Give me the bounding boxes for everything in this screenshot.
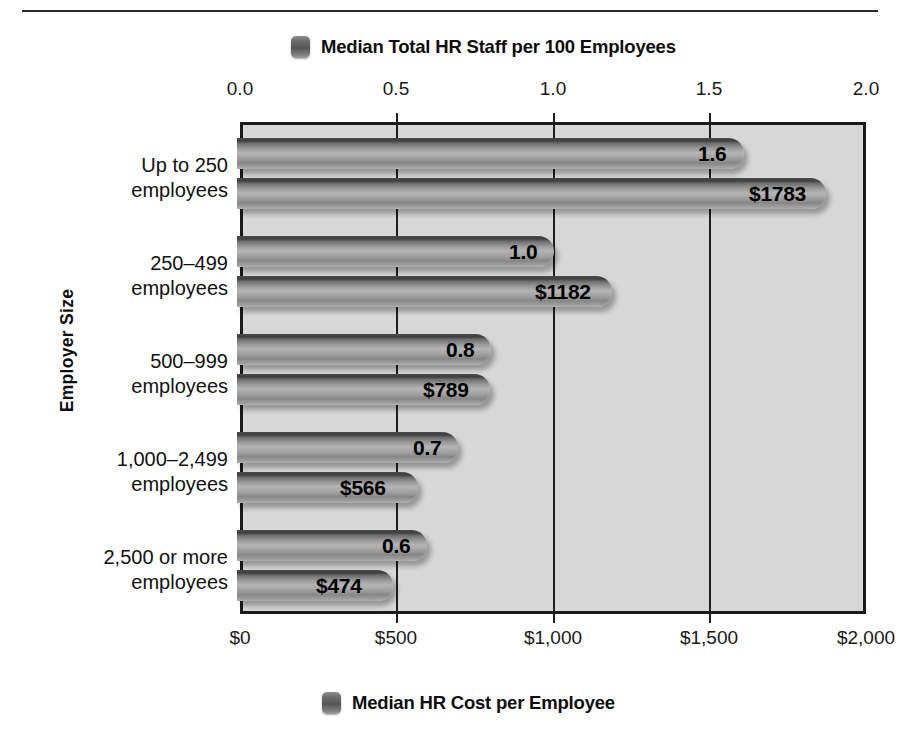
legend-top: Median Total HR Staff per 100 Employees (291, 36, 676, 58)
bar-staff-1 (237, 236, 554, 267)
bar-staff-0 (237, 138, 744, 169)
top-tick-0: 0.0 (227, 78, 253, 100)
category-label-1-line1: 250–499 (18, 251, 228, 276)
category-label-2-line1: 500–999 (18, 349, 228, 374)
bar-value-staff-1: 1.0 (509, 240, 537, 264)
top-tick-2: 1.0 (540, 78, 566, 100)
legend-top-label: Median Total HR Staff per 100 Employees (321, 36, 676, 58)
bar-cost-4 (237, 570, 393, 601)
bottom-tick-2: $1,000 (524, 627, 582, 649)
legend-swatch-icon (322, 692, 341, 714)
top-tick-stub-1 (396, 113, 398, 122)
category-label-3-line2: employees (18, 472, 228, 497)
bar-value-cost-4: $474 (316, 574, 362, 598)
bar-value-staff-3: 0.7 (413, 436, 441, 460)
bottom-tick-1: $500 (375, 627, 417, 649)
category-label-0-line1: Up to 250 (18, 153, 228, 178)
bar-value-cost-0: $1783 (749, 182, 806, 206)
category-label-1-line2: employees (18, 276, 228, 301)
bar-cost-0 (237, 178, 826, 209)
legend-bottom-label: Median HR Cost per Employee (352, 692, 615, 714)
bottom-tick-stub-2 (553, 614, 555, 623)
bar-value-staff-2: 0.8 (446, 338, 474, 362)
bottom-tick-stub-1 (396, 614, 398, 623)
bottom-tick-stub-3 (709, 614, 711, 623)
legend-bottom: Median HR Cost per Employee (322, 692, 615, 714)
chart-plot-area: 1.6 $1783 1.0 $1182 0.8 $789 0.7 (240, 122, 866, 614)
bar-value-cost-1: $1182 (535, 280, 591, 304)
top-tick-4: 2.0 (853, 78, 879, 100)
bar-value-staff-0: 1.6 (698, 142, 726, 166)
top-tick-1: 0.5 (383, 78, 409, 100)
legend-swatch-icon (291, 36, 310, 58)
bar-cost-3 (237, 472, 418, 503)
category-label-4: 2,500 or more employees (18, 545, 228, 595)
category-label-3-line1: 1,000–2,499 (18, 447, 228, 472)
top-tick-3: 1.5 (696, 78, 722, 100)
bar-value-staff-4: 0.6 (382, 534, 410, 558)
category-label-0-line2: employees (18, 178, 228, 203)
bottom-tick-4: $2,000 (837, 627, 895, 649)
category-label-2: 500–999 employees (18, 349, 228, 399)
top-tick-stub-2 (553, 113, 555, 122)
category-label-0: Up to 250 employees (18, 153, 228, 203)
category-label-2-line2: employees (18, 374, 228, 399)
bottom-tick-0: $0 (229, 627, 250, 649)
category-label-1: 250–499 employees (18, 251, 228, 301)
category-label-3: 1,000–2,499 employees (18, 447, 228, 497)
category-label-4-line2: employees (18, 570, 228, 595)
plot-inner: 1.6 $1783 1.0 $1182 0.8 $789 0.7 (243, 125, 863, 611)
bottom-tick-3: $1,500 (680, 627, 738, 649)
bar-value-cost-3: $566 (340, 476, 386, 500)
category-axis-labels: Up to 250 employees 250–499 employees 50… (10, 0, 228, 735)
top-tick-stub-3 (709, 113, 711, 122)
bar-value-cost-2: $789 (423, 378, 469, 402)
category-label-4-line1: 2,500 or more (18, 545, 228, 570)
